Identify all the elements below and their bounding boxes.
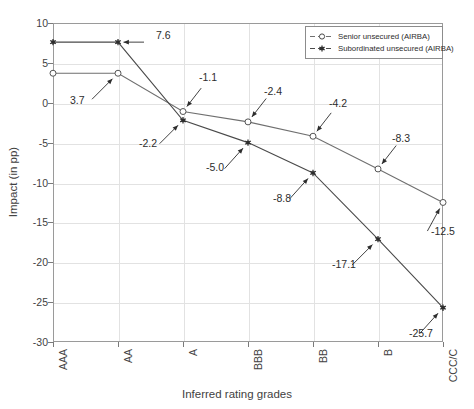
gridline-horizontal (54, 223, 442, 224)
legend-marker-open-circle (309, 31, 335, 42)
y-tick-mark (48, 222, 53, 223)
y-tick-label: -30 (33, 337, 48, 347)
x-tick-mark (443, 342, 444, 347)
data-label: -12.5 (431, 226, 455, 237)
gridline-horizontal (54, 104, 442, 105)
y-tick-mark (48, 103, 53, 104)
y-tick-mark (48, 262, 53, 263)
x-axis-label: Inferred rating grades (0, 388, 474, 400)
y-axis-label: Impact (in pp) (8, 147, 19, 217)
x-tick-mark (378, 342, 379, 347)
data-label: -2.4 (264, 86, 282, 97)
x-tick-mark (53, 342, 54, 347)
legend-label-senior: Senior unsecured (AIRBA) (338, 32, 430, 41)
gridline-vertical (184, 24, 185, 341)
gridline-horizontal (54, 263, 442, 264)
y-tick-mark (48, 183, 53, 184)
gridline-horizontal (54, 303, 442, 304)
x-tick-mark (313, 342, 314, 347)
x-tick-label: B (383, 349, 393, 356)
legend-marker-filled-star (309, 43, 335, 54)
y-tick-label: -5 (39, 138, 48, 148)
gridline-horizontal (54, 64, 442, 65)
x-tick-label: AA (123, 349, 133, 363)
data-label: 7.6 (156, 30, 171, 41)
y-tick-label: -10 (33, 178, 48, 188)
y-tick-label: 10 (36, 18, 48, 28)
y-tick-mark (48, 63, 53, 64)
legend-item-subordinated[interactable]: Subordinated unsecured (AIRBA) (309, 43, 438, 54)
chart-legend[interactable]: Senior unsecured (AIRBA) Subordinated un… (305, 26, 443, 59)
data-label: -4.2 (329, 98, 347, 109)
data-label: -8.8 (273, 193, 291, 204)
data-label: -25.7 (409, 328, 433, 339)
x-tick-label: CCC/C (448, 349, 458, 382)
y-tick-label: 0 (42, 98, 48, 108)
data-label: -5.0 (206, 162, 224, 173)
gridline-vertical (119, 24, 120, 341)
chart-figure: 1050-5-10-15-20-25-30 AAAAAABBBBBBCCC/C … (0, 0, 474, 409)
x-tick-mark (248, 342, 249, 347)
y-tick-label: 5 (42, 58, 48, 68)
data-label: -17.1 (332, 259, 356, 270)
y-tick-label: -25 (33, 297, 48, 307)
gridline-vertical (249, 24, 250, 341)
y-tick-mark (48, 302, 53, 303)
y-tick-label: -20 (33, 257, 48, 267)
y-tick-mark (48, 143, 53, 144)
y-tick-label: -15 (33, 217, 48, 227)
data-label: -1.1 (199, 72, 217, 83)
x-tick-label: BBB (253, 349, 263, 370)
y-tick-mark (48, 23, 53, 24)
data-label: -2.2 (139, 138, 157, 149)
data-label: 3.7 (70, 95, 85, 106)
x-tick-label: BB (318, 349, 328, 363)
x-tick-mark (183, 342, 184, 347)
data-label: -8.3 (392, 133, 410, 144)
plot-area (53, 23, 443, 342)
gridline-horizontal (54, 144, 442, 145)
gridline-vertical (314, 24, 315, 341)
x-tick-mark (118, 342, 119, 347)
x-tick-label: AAA (58, 349, 68, 370)
gridline-vertical (379, 24, 380, 341)
gridline-horizontal (54, 184, 442, 185)
legend-label-subordinated: Subordinated unsecured (AIRBA) (338, 44, 454, 53)
x-tick-label: A (188, 349, 198, 356)
legend-item-senior[interactable]: Senior unsecured (AIRBA) (309, 31, 438, 42)
